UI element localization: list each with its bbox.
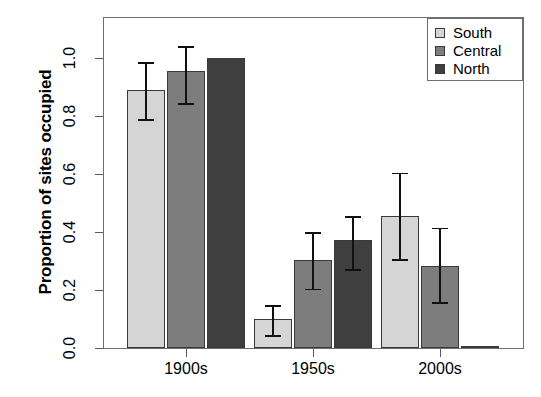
error-bar-cap-upper xyxy=(138,62,154,64)
legend: SouthCentralNorth xyxy=(427,18,523,81)
error-bar-cap-lower xyxy=(345,269,361,271)
y-tick-label: 0.0 xyxy=(61,326,79,370)
legend-item-south: South xyxy=(435,23,492,42)
legend-swatch-icon xyxy=(435,64,445,74)
error-bar-line xyxy=(145,62,147,119)
bar-north-1900s xyxy=(207,58,245,348)
y-tick-mark xyxy=(95,174,103,175)
error-bar-cap-lower xyxy=(178,103,194,105)
y-tick-label: 0.2 xyxy=(61,268,79,312)
error-bar-cap-lower xyxy=(432,302,448,304)
bar-north-2000s xyxy=(461,346,499,348)
legend-label: Central xyxy=(453,43,501,58)
error-bar-cap-upper xyxy=(305,232,321,234)
error-bar-line xyxy=(272,305,274,335)
legend-swatch-icon xyxy=(435,28,445,38)
y-tick-label: 1.0 xyxy=(61,36,79,80)
error-bar-line xyxy=(312,232,314,289)
error-bar-line xyxy=(185,46,187,103)
y-tick-mark xyxy=(95,116,103,117)
bar-south-1900s xyxy=(127,90,165,348)
legend-label: South xyxy=(453,25,492,40)
y-tick-mark xyxy=(95,58,103,59)
error-bar-cap-lower xyxy=(138,119,154,121)
legend-item-north: North xyxy=(435,59,490,78)
error-bar-cap-lower xyxy=(265,335,281,337)
y-tick-label: 0.8 xyxy=(61,94,79,138)
x-tick-mark xyxy=(186,349,187,357)
error-bar-cap-upper xyxy=(432,228,448,230)
y-axis-title: Proportion of sites occupied xyxy=(36,32,56,332)
legend-label: North xyxy=(453,61,490,76)
x-tick-label: 1950s xyxy=(268,360,358,378)
x-tick-mark xyxy=(440,349,441,357)
bar-central-1900s xyxy=(167,71,205,348)
legend-item-central: Central xyxy=(435,41,501,60)
error-bar-line xyxy=(439,228,441,303)
error-bar-line xyxy=(352,216,354,269)
x-tick-mark xyxy=(313,349,314,357)
legend-swatch-icon xyxy=(435,46,445,56)
x-tick-label: 1900s xyxy=(141,360,231,378)
error-bar-cap-upper xyxy=(265,305,281,307)
y-tick-label: 0.4 xyxy=(61,210,79,254)
error-bar-cap-upper xyxy=(392,173,408,175)
y-tick-mark xyxy=(95,348,103,349)
y-tick-label: 0.6 xyxy=(61,152,79,196)
error-bar-line xyxy=(399,173,401,259)
bar-chart-figure: Proportion of sites occupied 0.00.20.40.… xyxy=(0,0,541,397)
x-tick-label: 2000s xyxy=(395,360,485,378)
error-bar-cap-lower xyxy=(392,259,408,261)
error-bar-cap-lower xyxy=(305,289,321,291)
y-tick-mark xyxy=(95,232,103,233)
error-bar-cap-upper xyxy=(178,46,194,48)
y-tick-mark xyxy=(95,290,103,291)
error-bar-cap-upper xyxy=(345,216,361,218)
